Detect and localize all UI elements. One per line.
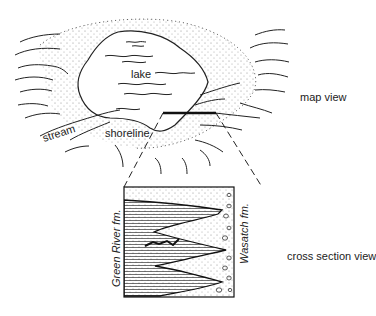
label-lake: lake: [131, 68, 151, 80]
label-green-river-fm: Green River fm.: [110, 209, 122, 287]
projection-line-right: [216, 113, 262, 187]
map-view: lake stream shoreline map view: [15, 19, 347, 187]
label-wasatch-fm: Wasatch fm.: [238, 203, 250, 264]
label-shoreline: shoreline: [105, 127, 150, 139]
label-stream: stream: [41, 122, 77, 144]
lake-diagram: lake stream shoreline map view Gree: [0, 0, 376, 316]
caption-map-view: map view: [300, 91, 347, 103]
green-river-tongues: [124, 200, 226, 296]
caption-cross-section-view: cross section view: [287, 250, 376, 262]
cross-section-view: Green River fm. Wasatch fm. cross sectio…: [110, 187, 376, 297]
